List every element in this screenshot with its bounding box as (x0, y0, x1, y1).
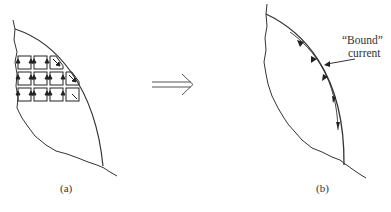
panel-a-label: (a) (60, 182, 73, 195)
panel-a (13, 20, 117, 176)
panel-b (264, 4, 366, 178)
diagonal-current-arrow-icon (72, 94, 77, 99)
arrowhead-icon (336, 122, 340, 129)
figure-canvas: “Bound” current (a) (b) (0, 0, 391, 212)
bound-current-arrowheads (297, 40, 340, 129)
annotation-pointer (324, 59, 355, 67)
panel-b-label: (b) (316, 182, 329, 195)
bound-current-line (290, 32, 338, 130)
panel-b-left-edge (264, 4, 366, 178)
annotation-line2: current (348, 47, 381, 59)
panel-a-curved-edge (15, 29, 103, 166)
pointer-arrowhead-icon (324, 61, 330, 67)
current-loop-grid (16, 56, 79, 101)
implies-arrow (152, 74, 193, 95)
annotation-line1: “Bound” (342, 34, 383, 46)
